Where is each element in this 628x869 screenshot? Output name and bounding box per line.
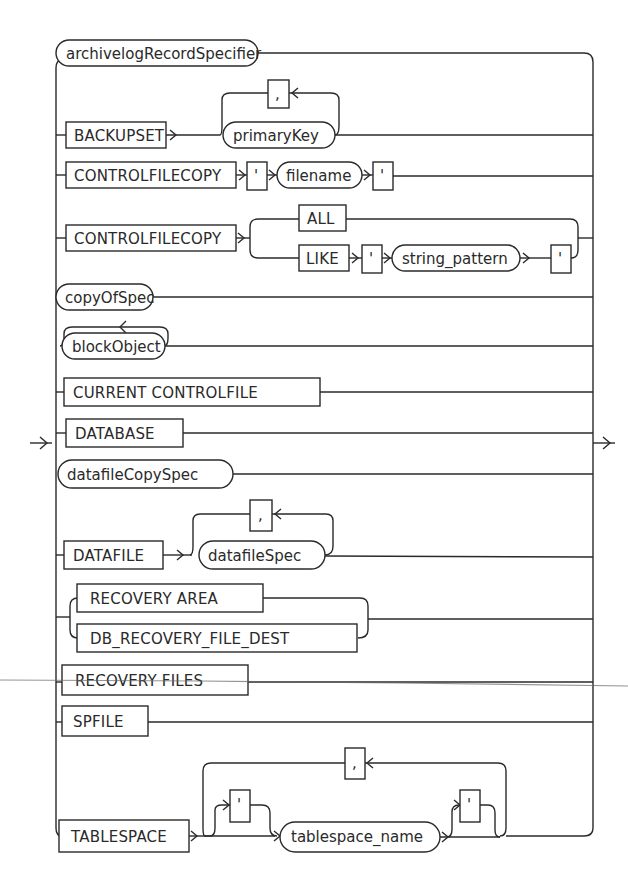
right-rail bbox=[584, 53, 593, 836]
branch-recovery-area-choice: RECOVERY AREA DB_RECOVERY_FILE_DEST bbox=[56, 584, 593, 652]
svg-text:,: , bbox=[258, 506, 263, 524]
branch-copyofspec: copyOfSpec bbox=[56, 284, 593, 310]
label-DATABASE: DATABASE bbox=[75, 425, 155, 443]
label-CONTROLFILECOPY: CONTROLFILECOPY bbox=[74, 230, 222, 248]
svg-text:,: , bbox=[275, 85, 280, 103]
label-datafileCopySpec: datafileCopySpec bbox=[67, 466, 198, 484]
entry-arrow-icon bbox=[30, 437, 52, 449]
svg-text:': ' bbox=[237, 796, 241, 814]
svg-text:,: , bbox=[352, 754, 357, 772]
label-CURRENT-CONTROLFILE: CURRENT CONTROLFILE bbox=[73, 384, 258, 402]
label-LIKE: LIKE bbox=[306, 250, 339, 268]
svg-text:': ' bbox=[558, 250, 562, 268]
label-DATAFILE: DATAFILE bbox=[73, 547, 144, 565]
railroad-diagram: archivelogRecordSpecifier BACKUPSET prim… bbox=[0, 0, 628, 869]
branch-database: DATABASE bbox=[56, 419, 593, 447]
branch-tablespace: TABLESPACE , ' tablespace_name ' bbox=[59, 748, 584, 852]
label-string_pattern: string_pattern bbox=[402, 250, 508, 269]
svg-text:': ' bbox=[369, 250, 373, 268]
label-TABLESPACE: TABLESPACE bbox=[70, 828, 167, 846]
label-archivelogRecordSpecifier: archivelogRecordSpecifier bbox=[66, 45, 262, 63]
label-copyOfSpec: copyOfSpec bbox=[65, 289, 154, 307]
branch-controlfilecopy-filename: CONTROLFILECOPY ' filename ' bbox=[56, 162, 593, 190]
label-datafileSpec: datafileSpec bbox=[208, 547, 301, 565]
label-DB_RECOVERY_FILE_DEST: DB_RECOVERY_FILE_DEST bbox=[90, 630, 290, 649]
label-filename: filename bbox=[286, 167, 351, 185]
branch-datafilecopyspec: datafileCopySpec bbox=[58, 460, 593, 488]
branch-datafile: DATAFILE , datafileSpec bbox=[56, 500, 593, 569]
branch-backupset: BACKUPSET primaryKey , bbox=[56, 80, 593, 148]
branch-spfile: SPFILE bbox=[56, 706, 593, 736]
branch-recovery-files: RECOVERY FILES bbox=[56, 665, 593, 695]
branch-blockobject: blockObject bbox=[60, 321, 593, 359]
label-tablespace_name: tablespace_name bbox=[291, 828, 423, 847]
label-primaryKey: primaryKey bbox=[233, 127, 319, 145]
svg-text:': ' bbox=[467, 796, 471, 814]
branch-controlfilecopy-choice: CONTROLFILECOPY ALL LIKE ' string_patter… bbox=[56, 205, 593, 273]
branch-current-controlfile: CURRENT CONTROLFILE bbox=[56, 378, 593, 406]
label-BACKUPSET: BACKUPSET bbox=[74, 127, 165, 145]
left-rail bbox=[56, 60, 62, 836]
svg-text:': ' bbox=[254, 167, 258, 185]
label-CONTROLFILECOPY: CONTROLFILECOPY bbox=[74, 167, 222, 185]
label-RECOVERY-AREA: RECOVERY AREA bbox=[90, 590, 219, 608]
svg-text:': ' bbox=[380, 167, 384, 185]
branch-archivelog: archivelogRecordSpecifier bbox=[56, 40, 584, 66]
label-SPFILE: SPFILE bbox=[73, 713, 124, 731]
label-blockObject: blockObject bbox=[72, 338, 161, 356]
exit-arrow-icon bbox=[593, 437, 615, 449]
label-ALL: ALL bbox=[307, 210, 335, 228]
